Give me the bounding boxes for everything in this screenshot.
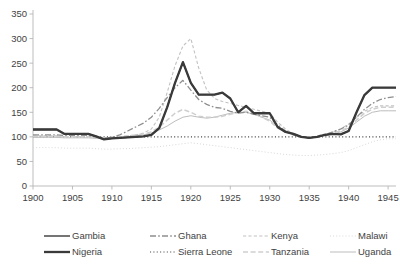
y-tick-label: 50 bbox=[16, 156, 27, 167]
line-chart: 050100150200250300350 190019051910191519… bbox=[0, 0, 400, 268]
legend-item-nigeria[interactable]: Nigeria bbox=[44, 246, 103, 257]
series-line-gambia bbox=[33, 62, 396, 139]
legend-item-tanzania[interactable]: Tanzania bbox=[243, 246, 310, 257]
y-tick-label: 200 bbox=[11, 82, 27, 93]
x-tick-label: 1925 bbox=[220, 192, 241, 203]
x-axis: 1900190519101915192019251930193519401945 bbox=[22, 186, 398, 203]
x-tick-label: 1940 bbox=[338, 192, 359, 203]
legend-label: Kenya bbox=[271, 230, 299, 241]
x-tick-label: 1900 bbox=[22, 192, 43, 203]
legend-item-malawi[interactable]: Malawi bbox=[330, 230, 388, 241]
series-lines bbox=[33, 39, 396, 156]
legend-item-kenya[interactable]: Kenya bbox=[243, 230, 299, 241]
x-tick-label: 1915 bbox=[141, 192, 162, 203]
series-line-kenya bbox=[33, 39, 396, 139]
legend-item-gambia[interactable]: Gambia bbox=[44, 230, 106, 241]
x-tick-label: 1935 bbox=[299, 192, 320, 203]
y-tick-label: 150 bbox=[11, 107, 27, 118]
legend-label: Sierra Leone bbox=[178, 246, 232, 257]
legend-label: Uganda bbox=[358, 246, 392, 257]
legend-label: Nigeria bbox=[72, 246, 103, 257]
y-tick-label: 300 bbox=[11, 33, 27, 44]
legend-label: Gambia bbox=[72, 230, 106, 241]
series-line-ghana bbox=[33, 80, 396, 138]
series-line-malawi bbox=[33, 139, 396, 156]
series-line-nigeria bbox=[33, 62, 396, 139]
plot-area: 050100150200250300350 190019051910191519… bbox=[11, 8, 399, 203]
x-tick-label: 1920 bbox=[180, 192, 201, 203]
y-tick-label: 350 bbox=[11, 8, 27, 19]
x-tick-label: 1945 bbox=[378, 192, 399, 203]
x-tick-label: 1930 bbox=[259, 192, 280, 203]
y-tick-label: 0 bbox=[22, 180, 27, 191]
legend-item-uganda[interactable]: Uganda bbox=[330, 246, 392, 257]
x-tick-label: 1910 bbox=[101, 192, 122, 203]
legend-item-ghana[interactable]: Ghana bbox=[150, 230, 207, 241]
x-tick-label: 1905 bbox=[62, 192, 83, 203]
legend-label: Malawi bbox=[358, 230, 388, 241]
y-tick-label: 250 bbox=[11, 58, 27, 69]
chart-legend: GambiaGhanaKenyaMalawiNigeriaSierra Leon… bbox=[44, 230, 392, 257]
legend-label: Ghana bbox=[178, 230, 207, 241]
legend-item-sierra-leone[interactable]: Sierra Leone bbox=[150, 246, 232, 257]
y-tick-label: 100 bbox=[11, 131, 27, 142]
chart-canvas: 050100150200250300350 190019051910191519… bbox=[0, 0, 400, 268]
legend-label: Tanzania bbox=[271, 246, 310, 257]
y-axis: 050100150200250300350 bbox=[11, 8, 33, 191]
